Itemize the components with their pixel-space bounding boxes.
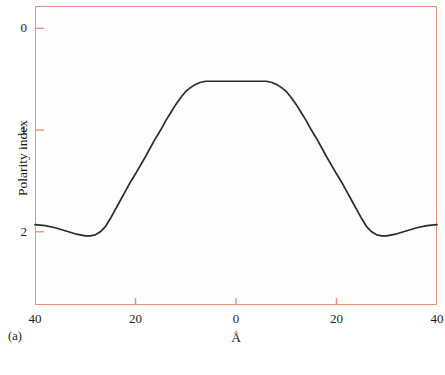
plot-frame [35,6,437,305]
x-tick-label-0: 0 [216,312,256,325]
x-tick-label-minus-20: 20 [116,312,156,325]
x-axis-title: Å [216,330,256,346]
x-tick-label-minus-40: 40 [15,312,55,325]
x-tick-label-plus-20: 20 [317,312,357,325]
y-axis-title: Polarity index [15,93,31,223]
y-tick-label-0: 0 [5,21,27,34]
x-tick-label-plus-40: 40 [417,312,445,325]
y-tick-label-2: 2 [5,225,27,238]
panel-label: (a) [8,329,22,344]
figure-panel: 0 1 2 40 20 0 20 40 Polarity index Å (a) [0,0,445,375]
